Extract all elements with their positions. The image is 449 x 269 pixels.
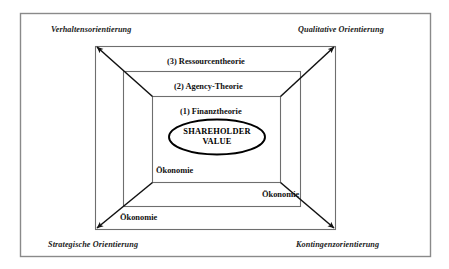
shareholder-value-line2: VALUE	[169, 137, 265, 147]
oekonomie-label-middle: Ökonomie	[262, 190, 299, 199]
oekonomie-label-outer: Ökonomie	[120, 213, 157, 222]
corner-label-top-left: Verhaltensorientierung	[51, 25, 131, 34]
diagram-page: Verhaltensorientierung Qualitative Orien…	[0, 0, 449, 269]
layer-label-ressourcentheorie: (3) Ressourcentheorie	[167, 57, 245, 66]
shareholder-value-line1: SHAREHOLDER	[169, 127, 265, 137]
shareholder-value-label: SHAREHOLDER VALUE	[169, 127, 265, 147]
layer-label-agency-theorie: (2) Agency-Theorie	[174, 82, 243, 91]
corner-label-top-right: Qualitative Orientierung	[298, 25, 384, 34]
oekonomie-label-inner: Ökonomie	[156, 166, 193, 175]
layer-label-finanztheorie: (1) Finanztheorie	[180, 107, 242, 116]
corner-label-bottom-right: Kontingenzorientierung	[296, 240, 379, 249]
corner-label-bottom-left: Strategische Orientierung	[48, 240, 138, 249]
